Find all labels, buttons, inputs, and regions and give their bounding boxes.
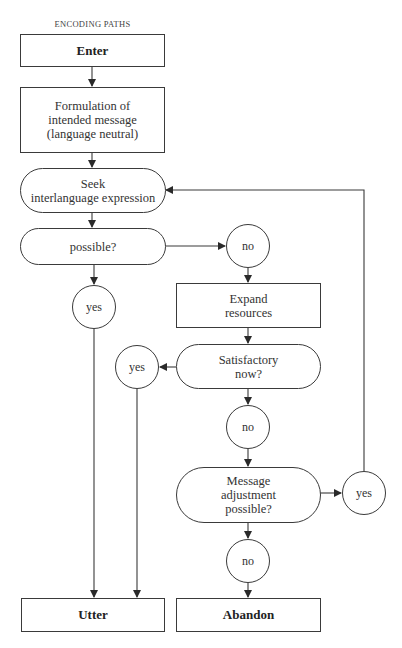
node-utter-label: Utter [78,608,108,622]
node-satisfactory-now: Satisfactory now? [176,344,321,389]
node-possible: possible? [20,228,166,265]
node-enter: Enter [20,34,165,67]
node-message-adjustment: Message adjustment possible? [176,467,321,523]
node-formulation-label: Formulation of intended message (languag… [47,99,138,141]
node-yes-3-label: yes [356,486,372,500]
diagram-title: ENCODING PATHS [20,19,165,29]
node-seek-label: Seek interlanguage expression [31,177,156,205]
node-possible-label: possible? [70,240,117,254]
node-no-2: no [226,405,270,449]
node-abandon-label: Abandon [223,608,274,622]
node-satisfactory-label: Satisfactory now? [219,353,279,381]
node-yes-1-label: yes [86,300,102,314]
node-no-1: no [226,224,270,268]
node-no-1-label: no [242,239,254,253]
node-no-3-label: no [242,554,254,568]
node-formulation: Formulation of intended message (languag… [20,87,165,153]
node-no-2-label: no [242,420,254,434]
node-message-adjustment-label: Message adjustment possible? [221,474,276,516]
node-enter-label: Enter [77,44,109,58]
node-no-3: no [226,539,270,583]
node-yes-2: yes [115,345,159,389]
node-expand-resources: Expand resources [176,283,321,328]
node-utter: Utter [21,598,165,632]
node-yes-2-label: yes [129,360,145,374]
node-seek-interlanguage: Seek interlanguage expression [20,168,166,213]
node-yes-1: yes [72,285,116,329]
node-expand-label: Expand resources [225,292,272,320]
node-yes-3: yes [342,471,386,515]
node-abandon: Abandon [176,598,321,632]
